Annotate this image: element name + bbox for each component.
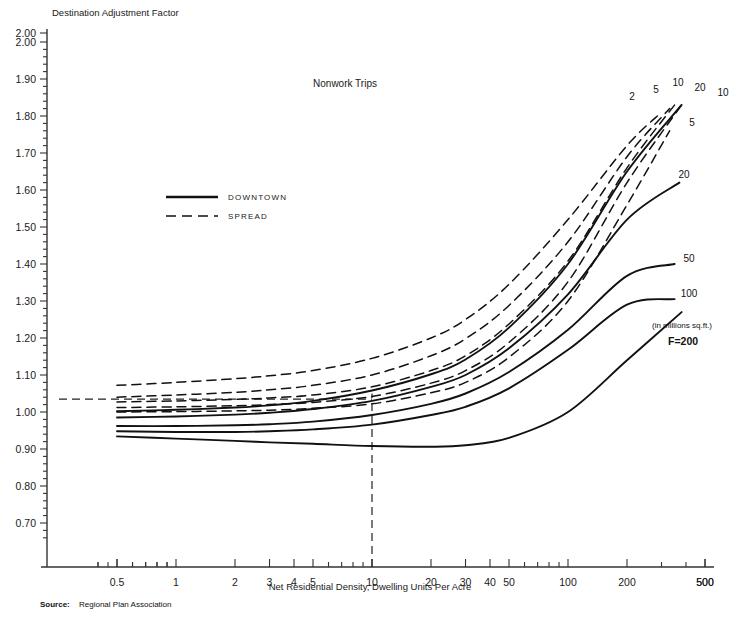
- chart-page: 0.700.800.901.001.101.201.301.401.501.60…: [0, 0, 740, 619]
- annotation-units: (in millions sq.ft.): [652, 321, 712, 330]
- series-curve: [117, 299, 675, 432]
- y-tick-label: 0.80: [16, 480, 37, 492]
- curve-label: 20: [678, 169, 690, 180]
- series-curve: [117, 183, 679, 418]
- x-axis-title: Net Residential Density, Dwelling Units …: [269, 581, 472, 592]
- y-tick-label: 1.00: [16, 406, 37, 418]
- x-tick-label: 500: [696, 576, 714, 588]
- x-tick-label: 0.5: [110, 576, 125, 588]
- curve-label: 50: [683, 253, 695, 264]
- y-tick-label: 1.10: [16, 369, 37, 381]
- y-tick-label: 1.60: [16, 184, 37, 196]
- x-tick-label: 2: [232, 576, 238, 588]
- series-curve: [117, 109, 670, 398]
- curve-label: 100: [681, 288, 698, 299]
- x-tick-label: 1: [173, 576, 179, 588]
- y-tick-label: 0.70: [16, 517, 37, 529]
- y-tick-label: 0.90: [16, 443, 37, 455]
- y-tick-label: 1.40: [16, 258, 37, 270]
- y-tick-label: 1.30: [16, 295, 37, 307]
- legend-label-downtown: DOWNTOWN: [228, 193, 287, 202]
- series-curve: [117, 105, 675, 402]
- annotation-f200: F=200: [668, 335, 698, 347]
- x-tick-label: 100: [559, 576, 577, 588]
- source-label: Source:: [40, 600, 70, 609]
- curve-label: 10: [672, 77, 684, 88]
- y-tick-label: 1.70: [16, 147, 37, 159]
- x-tick-label: 40: [484, 576, 496, 588]
- series-curve: [117, 112, 662, 385]
- curve-label: 2: [629, 91, 635, 102]
- curve-label: 5: [653, 84, 659, 95]
- x-tick-label: 200: [618, 576, 636, 588]
- y-tick-label: 1.80: [16, 110, 37, 122]
- legend-label-spread: SPREAD: [228, 212, 268, 221]
- y-tick-label: 2.00: [16, 27, 37, 39]
- series-curve: [117, 264, 675, 426]
- x-tick-label: 50: [503, 576, 515, 588]
- chart-svg: 0.700.800.901.001.101.201.301.401.501.60…: [0, 0, 740, 619]
- curve-label: 20: [694, 82, 706, 93]
- y-axis-title: Destination Adjustment Factor: [52, 7, 179, 18]
- curve-label: 10: [717, 87, 729, 98]
- curve-label: 5: [689, 117, 695, 128]
- y-tick-label: 1.50: [16, 221, 37, 233]
- y-tick-label: 1.20: [16, 332, 37, 344]
- source-value: Regional Plan Association: [79, 600, 172, 609]
- chart-title: Nonwork Trips: [313, 78, 377, 89]
- y-tick-label: 1.90: [16, 73, 37, 85]
